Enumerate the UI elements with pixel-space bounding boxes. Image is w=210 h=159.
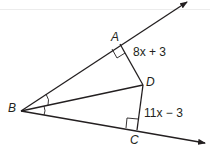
label-d: D bbox=[146, 75, 155, 89]
label-c: C bbox=[130, 133, 139, 147]
angle-bisector-diagram: A B C D 8x + 3 11x − 3 bbox=[0, 0, 210, 159]
label-a: A bbox=[110, 30, 119, 44]
label-dc-length: 11x − 3 bbox=[144, 106, 183, 120]
angle-arc-abd bbox=[46, 94, 49, 105]
label-b: B bbox=[8, 101, 16, 115]
right-angle-mark-c bbox=[126, 118, 138, 128]
segment-bd bbox=[21, 85, 143, 111]
label-ad-length: 8x + 3 bbox=[133, 45, 166, 59]
segment-dc bbox=[137, 85, 143, 130]
angle-arc-dbc bbox=[44, 106, 45, 115]
